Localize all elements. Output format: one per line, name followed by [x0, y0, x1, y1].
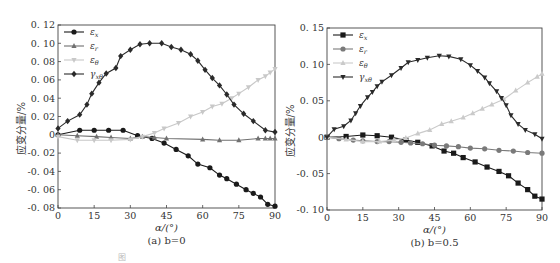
x-tick-label: 45 [160, 210, 172, 221]
diamond-marker [128, 47, 133, 53]
legend-label: εr [359, 44, 368, 56]
x-tick-label: 75 [233, 210, 245, 221]
triangle-down-marker [272, 67, 277, 72]
diamond-marker [147, 40, 152, 46]
series-γxθ [55, 40, 277, 135]
circle-marker [525, 150, 530, 155]
series-εr [324, 135, 544, 156]
x-tick-label: 45 [428, 212, 440, 223]
circle-marker [71, 29, 76, 34]
y-tick-label: -0. 02 [28, 147, 55, 158]
circle-marker [161, 140, 166, 145]
legend: εxεrεθγxθ [333, 30, 372, 84]
circle-marker [420, 141, 425, 146]
x-tick-label: 30 [124, 210, 136, 221]
x-tick-label: 90 [269, 210, 281, 221]
circle-marker [408, 140, 413, 145]
x-tick-label: 90 [536, 212, 548, 223]
circle-marker [77, 128, 82, 133]
figure-caption-partial: 图 [118, 253, 126, 262]
x-tick-label: 75 [500, 212, 512, 223]
legend-label: εr [90, 41, 99, 53]
triangle-down-marker [268, 71, 273, 76]
x-axis-label: α/(°) [155, 222, 178, 233]
circle-marker [511, 148, 516, 153]
circle-marker [234, 182, 239, 187]
square-marker [525, 187, 530, 192]
circle-marker [387, 139, 392, 144]
diamond-marker [263, 127, 268, 133]
y-tick-label: 0. 04 [31, 93, 55, 104]
x-tick-label: 15 [357, 212, 369, 223]
diamond-marker [251, 118, 256, 124]
plot-frame [327, 28, 542, 210]
diamond-marker [65, 118, 70, 124]
y-tick-label: 0. 05 [300, 95, 324, 106]
y-axis-label: 应变分量/% [284, 105, 296, 158]
circle-marker [539, 151, 544, 156]
square-marker [532, 194, 537, 199]
y-tick-label: 0. 02 [31, 111, 55, 122]
circle-marker [496, 148, 501, 153]
triangle-down-marker [468, 63, 473, 68]
circle-marker [444, 143, 449, 148]
figure: -0. 08-0. 06-0. 04-0. 0200. 020. 040. 06… [0, 0, 560, 263]
diamond-marker [55, 125, 60, 131]
circle-marker [258, 194, 263, 199]
diamond-marker [169, 44, 174, 50]
circle-marker [174, 147, 179, 152]
diamond-marker [272, 129, 277, 135]
triangle-down-marker [516, 122, 521, 127]
circle-marker [243, 187, 248, 192]
circle-marker [468, 146, 473, 151]
y-tick-label: 0. 12 [31, 19, 55, 30]
y-tick-label: 0. 10 [300, 59, 324, 70]
square-marker [360, 132, 365, 137]
square-marker [496, 169, 501, 174]
circle-marker [186, 153, 191, 158]
legend-label: γxθ [359, 72, 372, 84]
triangle-down-marker [406, 60, 411, 65]
legend-label: εθ [90, 55, 99, 67]
circle-marker [195, 161, 200, 166]
x-tick-label: 0 [324, 212, 330, 223]
y-tick-label: 0. 10 [31, 38, 55, 49]
square-marker [441, 148, 446, 153]
circle-marker [121, 128, 126, 133]
triangle-down-marker [398, 66, 403, 71]
diamond-marker [113, 65, 118, 71]
circle-marker [340, 46, 345, 51]
circle-marker [106, 128, 111, 133]
panel-caption: (b) b=0.5 [410, 237, 458, 248]
square-marker [484, 164, 489, 169]
x-tick-label: 0 [55, 210, 61, 221]
circle-marker [482, 146, 487, 151]
legend-label: γxθ [90, 69, 103, 81]
y-tick-label: -0. 05 [297, 168, 324, 179]
legend-label: εx [359, 30, 368, 42]
circle-marker [272, 204, 277, 209]
square-marker [340, 32, 345, 37]
y-tick-label: 0. 15 [300, 22, 324, 33]
x-tick-label: 60 [197, 210, 209, 221]
chart-panel-a: -0. 08-0. 06-0. 04-0. 0200. 020. 040. 06… [15, 19, 281, 246]
circle-marker [432, 143, 437, 148]
y-tick-label: 0. 06 [31, 74, 55, 85]
triangle-down-marker [504, 103, 509, 108]
triangle-up-marker [539, 71, 544, 76]
triangle-down-marker [256, 78, 261, 83]
diamond-marker [137, 41, 142, 47]
circle-marker [207, 165, 212, 170]
y-tick-label: -0. 10 [297, 204, 324, 215]
chart-panel-b: -0. 10-0. 0500. 050. 100. 15015304560759… [284, 22, 548, 248]
square-marker [375, 133, 380, 138]
square-marker [473, 159, 478, 164]
triangle-down-marker [348, 118, 353, 123]
x-tick-label: 30 [393, 212, 405, 223]
x-tick-label: 15 [88, 210, 100, 221]
diamond-marker [178, 47, 183, 53]
triangle-down-marker [532, 132, 537, 137]
square-marker [539, 196, 544, 201]
y-tick-label: -0. 06 [28, 184, 55, 195]
y-tick-label: 0 [318, 132, 324, 143]
